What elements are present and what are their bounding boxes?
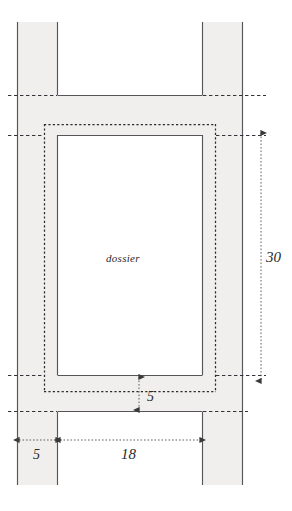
top-crossbar-fill (58, 95, 202, 135)
dimension-label-gap-5: 5 (147, 390, 154, 404)
left-column-fill (17, 22, 58, 485)
part-label-dossier: dossier (106, 253, 140, 264)
diagram-svg (0, 0, 292, 511)
dimension-label-inner-width-18: 18 (121, 447, 136, 462)
right-column-fill (202, 22, 243, 485)
dimension-label-height-30: 30 (266, 250, 281, 265)
bottom-crossbar-fill (58, 375, 202, 412)
dimension-label-column-width-5: 5 (33, 448, 40, 462)
technical-drawing-canvas: dossier 30 5 5 18 (0, 0, 292, 511)
